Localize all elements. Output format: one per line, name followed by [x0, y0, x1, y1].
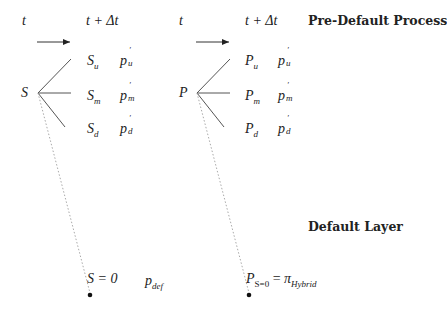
- left-root-label: S: [21, 86, 28, 100]
- right-state-down: Pd: [245, 122, 258, 136]
- right-default-branch: [197, 93, 249, 293]
- left-prob-down: p′d: [120, 122, 127, 136]
- right-branch-down: [197, 93, 224, 127]
- right-time-now-label: t: [179, 14, 183, 28]
- left-time-next-label: t + Δt: [86, 14, 118, 28]
- left-default-node: [88, 293, 93, 298]
- left-branch-down: [38, 93, 65, 127]
- right-prob-mid: p′m: [278, 89, 285, 103]
- left-time-now-label: t: [22, 14, 26, 28]
- right-prob-down: p′d: [278, 122, 285, 136]
- right-state-up: Pu: [245, 54, 258, 68]
- default-layer-title: Default Layer: [308, 221, 403, 234]
- right-default-node: [247, 293, 252, 298]
- right-state-mid: Pm: [245, 89, 260, 103]
- left-default-state: S = 0: [87, 272, 117, 286]
- left-prob-up: p′u: [120, 54, 127, 68]
- pre-default-process-title: Pre-Default Process: [308, 15, 447, 28]
- left-state-mid: Sm: [87, 89, 101, 103]
- left-state-down: Sd: [87, 122, 99, 136]
- right-prob-up: p′u: [278, 54, 285, 68]
- left-default-prob: pdef: [145, 274, 163, 288]
- right-default-state: PS=0 = πHybrid: [246, 272, 317, 286]
- right-root-label: P: [179, 86, 188, 100]
- left-default-branch: [38, 93, 90, 293]
- left-branch-up: [38, 59, 71, 93]
- right-branch-up: [197, 59, 230, 93]
- right-time-next-label: t + Δt: [245, 14, 277, 28]
- left-prob-mid: p′m: [120, 89, 127, 103]
- left-state-up: Su: [87, 54, 99, 68]
